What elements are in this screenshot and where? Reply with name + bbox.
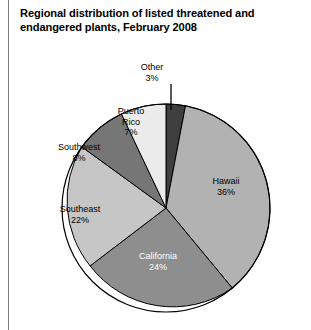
pie-label-puerto-rico-line2: Rico <box>122 117 140 127</box>
pie-label-southwest: Southwest 8% <box>47 142 111 163</box>
pie-chart <box>0 0 311 330</box>
pie-label-hawaii-name: Hawaii <box>212 176 239 186</box>
pie-label-other-name: Other <box>141 62 164 72</box>
pie-label-california-name: California <box>139 251 177 261</box>
pie-label-other: Other 3% <box>117 62 187 83</box>
pie-label-southwest-name: Southwest <box>58 142 100 152</box>
pie-label-california: California 24% <box>120 251 196 272</box>
pie-chart-svg <box>0 0 311 330</box>
pie-label-hawaii-value: 36% <box>217 187 235 197</box>
pie-label-southwest-value: 8% <box>72 153 85 163</box>
pie-label-puerto-rico: Puerto Rico 7% <box>106 106 156 138</box>
pie-label-puerto-rico-value: 7% <box>124 127 137 137</box>
pie-label-california-value: 24% <box>149 262 167 272</box>
pie-label-other-value: 3% <box>145 73 158 83</box>
pie-label-southeast: Southeast 22% <box>42 204 118 225</box>
pie-label-hawaii: Hawaii 36% <box>196 176 256 197</box>
pie-label-puerto-rico-line1: Puerto <box>118 106 145 116</box>
figure-container: Regional distribution of listed threaten… <box>0 0 311 330</box>
pie-label-southeast-name: Southeast <box>60 204 101 214</box>
pie-label-southeast-value: 22% <box>71 215 89 225</box>
